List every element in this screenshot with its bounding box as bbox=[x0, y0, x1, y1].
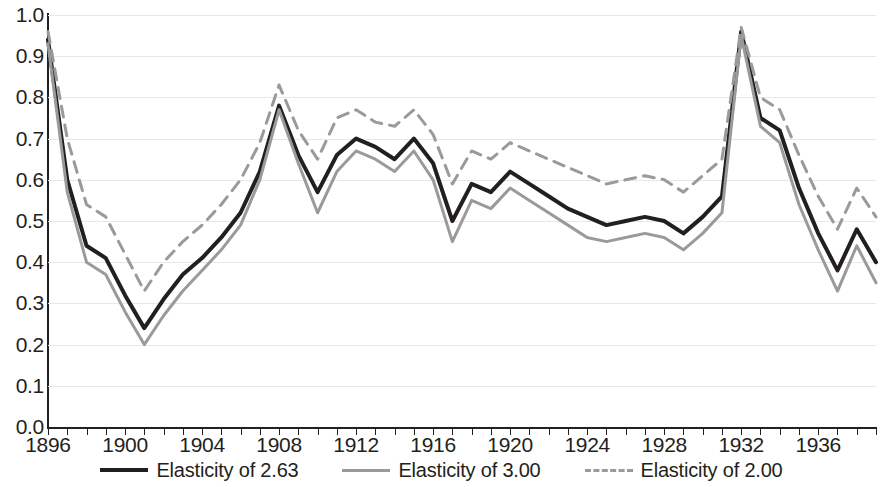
x-axis-tick-mark bbox=[241, 429, 242, 435]
x-axis-tick-mark bbox=[298, 429, 299, 435]
x-axis-tick-mark bbox=[741, 429, 742, 435]
plot-area bbox=[48, 15, 876, 427]
x-axis-tick-label: 1924 bbox=[564, 433, 610, 457]
y-axis-tick-label: 0.2 bbox=[0, 334, 44, 355]
legend-swatch-icon bbox=[585, 469, 633, 472]
legend-swatch-icon bbox=[342, 469, 390, 472]
x-axis-tick-mark bbox=[799, 429, 800, 435]
x-axis-tick-mark bbox=[356, 429, 357, 435]
x-axis-tick-mark bbox=[510, 429, 511, 435]
x-axis-tick-mark bbox=[857, 429, 858, 435]
x-axis-tick-mark bbox=[183, 429, 184, 435]
x-axis-tick-mark bbox=[279, 429, 280, 435]
x-axis-tick-mark bbox=[414, 429, 415, 435]
x-axis-tick-mark bbox=[722, 429, 723, 435]
y-axis-tick-label: 0.7 bbox=[0, 128, 44, 149]
x-axis-tick-mark bbox=[645, 429, 646, 435]
y-axis-tick-labels: 1.00.90.80.70.60.50.40.30.20.10.0 bbox=[0, 0, 44, 442]
x-axis-tick-mark bbox=[318, 429, 319, 435]
x-axis-tick-mark bbox=[260, 429, 261, 435]
x-axis-tick-label: 1936 bbox=[795, 433, 841, 457]
legend-label: Elasticity of 3.00 bbox=[398, 459, 540, 481]
x-axis-tick-mark bbox=[67, 429, 68, 435]
x-axis-tick-mark bbox=[395, 429, 396, 435]
y-axis-tick-label: 0.4 bbox=[0, 251, 44, 272]
y-axis-tick-label: 0.6 bbox=[0, 169, 44, 190]
x-axis-tick-mark bbox=[125, 429, 126, 435]
x-axis-tick-label: 1900 bbox=[102, 433, 148, 457]
x-axis-tick-mark bbox=[144, 429, 145, 435]
x-axis-tick-mark bbox=[549, 429, 550, 435]
y-axis-tick-label: 0.9 bbox=[0, 45, 44, 66]
x-axis-tick-mark bbox=[837, 429, 838, 435]
x-axis-tick-mark bbox=[472, 429, 473, 435]
legend-item[interactable]: Elasticity of 2.00 bbox=[585, 459, 783, 481]
x-axis-tick-mark bbox=[164, 429, 165, 435]
line-chart: 1.00.90.80.70.60.50.40.30.20.10.0 189619… bbox=[0, 0, 883, 487]
x-axis-tick-mark bbox=[568, 429, 569, 435]
x-axis-tick-label: 1912 bbox=[333, 433, 379, 457]
series-line bbox=[48, 36, 876, 345]
legend-swatch-icon bbox=[100, 468, 148, 472]
x-axis-tick-mark bbox=[683, 429, 684, 435]
chart-legend: Elasticity of 2.63Elasticity of 3.00Elas… bbox=[0, 455, 883, 485]
legend-label: Elasticity of 2.63 bbox=[156, 459, 298, 481]
y-axis-tick-label: 0.8 bbox=[0, 86, 44, 107]
x-axis-tick-mark bbox=[452, 429, 453, 435]
x-axis-tick-mark bbox=[433, 429, 434, 435]
x-axis-tick-mark bbox=[664, 429, 665, 435]
x-axis-tick-mark bbox=[491, 429, 492, 435]
x-axis-tick-mark bbox=[337, 429, 338, 435]
x-axis-tick-label: 1916 bbox=[410, 433, 456, 457]
x-axis-tick-mark bbox=[876, 429, 877, 435]
y-axis-tick-label: 1.0 bbox=[0, 4, 44, 25]
series-line bbox=[48, 31, 876, 328]
x-axis-tick-mark bbox=[375, 429, 376, 435]
x-axis-tick-mark bbox=[48, 429, 49, 435]
x-axis-tick-label: 1904 bbox=[179, 433, 225, 457]
x-axis-tick-mark bbox=[529, 429, 530, 435]
x-axis-tick-mark bbox=[626, 429, 627, 435]
x-axis-tick-mark bbox=[780, 429, 781, 435]
y-axis-tick-label: 0.3 bbox=[0, 292, 44, 313]
x-axis-tick-label: 1920 bbox=[487, 433, 533, 457]
x-axis-tick-mark bbox=[106, 429, 107, 435]
series-line bbox=[48, 27, 876, 291]
x-axis-tick-mark bbox=[87, 429, 88, 435]
x-axis-tick-mark bbox=[202, 429, 203, 435]
legend-label: Elasticity of 2.00 bbox=[641, 459, 783, 481]
x-axis-tick-mark bbox=[703, 429, 704, 435]
x-axis-tick-mark bbox=[221, 429, 222, 435]
x-axis-tick-label: 1932 bbox=[718, 433, 764, 457]
x-axis-tick-label: 1928 bbox=[641, 433, 687, 457]
x-axis-line bbox=[47, 427, 877, 429]
x-axis-tick-mark bbox=[818, 429, 819, 435]
x-axis-tick-label: 1908 bbox=[256, 433, 302, 457]
x-axis-tick-label: 1896 bbox=[25, 433, 71, 457]
series-layer bbox=[48, 15, 876, 427]
y-axis-tick-label: 0.1 bbox=[0, 375, 44, 396]
legend-item[interactable]: Elasticity of 2.63 bbox=[100, 459, 298, 481]
legend-item[interactable]: Elasticity of 3.00 bbox=[342, 459, 540, 481]
y-axis-tick-label: 0.5 bbox=[0, 210, 44, 231]
x-axis-tick-mark bbox=[587, 429, 588, 435]
x-axis-tick-mark bbox=[606, 429, 607, 435]
x-axis-tick-mark bbox=[760, 429, 761, 435]
